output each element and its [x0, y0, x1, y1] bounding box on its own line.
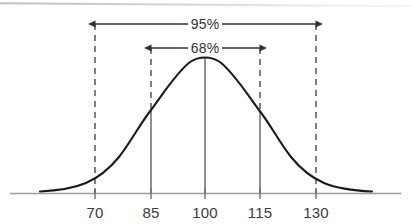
tick-label-85: 85 [142, 204, 159, 221]
bell-curve-path [40, 58, 372, 192]
tick-label-70: 70 [86, 204, 103, 221]
tick-label-100: 100 [192, 204, 218, 221]
band-95-label: 95% [191, 16, 220, 32]
distribution-chart-canvas: 95% 68% 70 85 100 115 130 [0, 0, 412, 224]
tick-label-115: 115 [248, 204, 273, 221]
band-68-label: 68% [191, 40, 220, 56]
top-scan-line [0, 3, 412, 6]
tick-label-130: 130 [303, 204, 329, 221]
normal-distribution-figure: 95% 68% 70 85 100 115 130 [0, 0, 412, 224]
